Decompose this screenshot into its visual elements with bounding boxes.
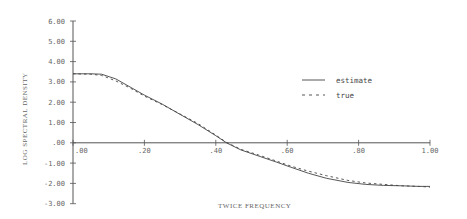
series-true	[73, 74, 430, 187]
legend: estimate true	[302, 76, 373, 100]
y-axis-title: LOG SPECTRAL DENSITY	[21, 72, 29, 165]
y-tick-label: .00	[52, 139, 65, 147]
y-tick-label: 1.00	[48, 119, 65, 127]
y-tick-label: -3.00	[44, 200, 65, 208]
x-tick-label: .40	[209, 147, 222, 155]
y-tick-label: -2.00	[44, 180, 65, 188]
x-tick-label: .80	[352, 147, 365, 155]
y-tick-label: -1.00	[44, 160, 65, 168]
spectral-density-chart: 6.005.004.003.002.001.00.00-1.00-2.00-3.…	[0, 0, 467, 219]
x-tick-label: 1.00	[422, 147, 439, 155]
y-tick-label: 4.00	[48, 58, 65, 66]
y-tick-label: 6.00	[48, 18, 65, 26]
x-tick-label: .60	[281, 147, 294, 155]
x-tick-label: .20	[138, 147, 151, 155]
y-tick-label: 2.00	[48, 99, 65, 107]
x-axis-title: TWICE FREQUENCY	[218, 202, 291, 210]
y-tick-label: 3.00	[48, 78, 65, 86]
axes: 6.005.004.003.002.001.00.00-1.00-2.00-3.…	[44, 18, 439, 209]
x-tick-label: .00	[75, 147, 88, 155]
series-estimate	[73, 74, 430, 187]
legend-estimate-label: estimate	[336, 76, 373, 85]
y-tick-label: 5.00	[48, 38, 65, 46]
legend-true-label: true	[336, 91, 355, 100]
series-lines	[73, 74, 430, 187]
